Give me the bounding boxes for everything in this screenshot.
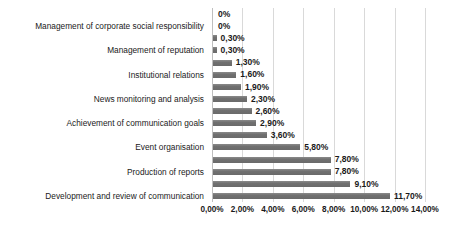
x-tick-label: 6,00% [292, 206, 315, 214]
category-label: Production of reports [127, 168, 204, 176]
bar-row: 0,30% [212, 32, 425, 44]
bar-value-label: 2,90% [260, 119, 284, 128]
bar-row: 2,30% [212, 93, 425, 105]
bar [212, 169, 331, 175]
bar-value-label: 0% [218, 10, 230, 19]
category-label: Development and review of communication [45, 192, 204, 200]
bar-value-label: 0% [218, 22, 230, 31]
plot-area: 0%0%0,30%0,30%1,30%1,60%1,90%2,30%2,60%2… [212, 8, 425, 202]
bar-row: 1,90% [212, 81, 425, 93]
bar-value-label: 11,70% [394, 192, 422, 201]
bar-row: 7,80% [212, 166, 425, 178]
bar-row: 2,90% [212, 117, 425, 129]
value-axis-line [212, 8, 213, 202]
bar-row: 1,60% [212, 69, 425, 81]
bar-row: 0% [212, 20, 425, 32]
bar-row: 7,80% [212, 154, 425, 166]
bar-value-label: 3,60% [271, 131, 295, 140]
horizontal-bar-chart: Management of corporate social responsib… [0, 0, 453, 231]
bar [212, 84, 241, 90]
bar [212, 144, 300, 150]
category-label: News monitoring and analysis [94, 95, 204, 103]
x-tick-label: 14,00% [411, 206, 439, 214]
bar-row: 1,30% [212, 57, 425, 69]
gridline-1400 [425, 8, 426, 202]
bar-value-label: 5,80% [304, 143, 328, 152]
x-tick-label: 0,00% [200, 206, 223, 214]
bar [212, 60, 232, 66]
bar-value-label: 1,60% [240, 70, 264, 79]
bar-row: 3,60% [212, 129, 425, 141]
bar-row: 5,80% [212, 141, 425, 153]
bar [212, 132, 267, 138]
bar [212, 120, 256, 126]
value-axis-tick-labels: 0,00%2,00%4,00%6,00%8,00%10,00%12,00%14,… [212, 204, 425, 220]
bar [212, 72, 236, 78]
bar-value-label: 2,30% [251, 95, 275, 104]
bar [212, 96, 247, 102]
bar-rows: 0%0%0,30%0,30%1,30%1,60%1,90%2,30%2,60%2… [212, 8, 425, 202]
category-label: Institutional relations [128, 71, 204, 79]
category-label: Event organisation [135, 143, 204, 151]
bar [212, 108, 252, 114]
x-tick-label: 12,00% [381, 206, 409, 214]
x-tick-label: 8,00% [322, 206, 345, 214]
bar-row: 2,60% [212, 105, 425, 117]
category-axis-labels: Management of corporate social responsib… [0, 8, 208, 202]
category-label: Management of corporate social responsib… [35, 22, 204, 30]
bar-value-label: 0,30% [221, 46, 245, 55]
x-tick-label: 10,00% [350, 206, 378, 214]
category-label: Management of reputation [107, 46, 204, 54]
bar-value-label: 9,10% [354, 180, 378, 189]
category-label: Achievement of communication goals [67, 119, 204, 127]
bar [212, 157, 331, 163]
x-tick-label: 4,00% [261, 206, 284, 214]
bar-value-label: 1,30% [236, 58, 260, 67]
bar-row: 11,70% [212, 190, 425, 202]
bar-row: 0,30% [212, 44, 425, 56]
bar-row: 9,10% [212, 178, 425, 190]
bar-value-label: 7,80% [335, 167, 359, 176]
bar-row: 0% [212, 8, 425, 20]
bar-value-label: 0,30% [221, 34, 245, 43]
bar-value-label: 1,90% [245, 83, 269, 92]
bar [212, 193, 390, 199]
x-tick-label: 2,00% [231, 206, 254, 214]
bar-value-label: 2,60% [256, 107, 280, 116]
bar-value-label: 7,80% [335, 155, 359, 164]
bar [212, 181, 350, 187]
